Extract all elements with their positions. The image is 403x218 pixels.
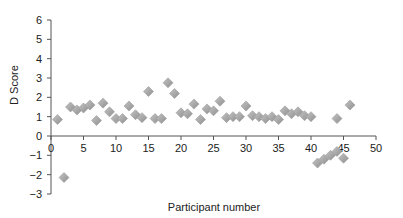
data-point-marker [345,100,355,110]
y-tick-label: 2 [36,91,42,103]
data-point-marker [170,88,180,98]
x-tick-label: 25 [207,142,219,154]
y-tick-label: 5 [36,33,42,45]
x-axis-label: Participant number [168,201,261,213]
y-axis: −3−2−10123456 [29,14,51,200]
x-tick-label: 50 [370,142,382,154]
chart-canvas: −3−2−10123456 05101520253035404550 D Sco… [0,0,403,218]
data-point-marker [215,96,225,106]
data-point-marker [53,115,63,125]
data-point-marker [59,173,69,183]
data-point-marker [306,112,316,122]
x-tick-label: 10 [110,142,122,154]
y-tick-label: 0 [36,130,42,142]
data-point-marker [144,87,154,97]
y-tick-label: 3 [36,72,42,84]
y-tick-label: −1 [29,149,42,161]
data-point-marker [339,153,349,163]
data-point-marker [118,114,128,124]
data-point-marker [92,116,102,126]
data-point-marker [124,101,134,111]
data-point-marker [332,114,342,124]
y-tick-label: 4 [36,53,42,65]
x-tick-label: 0 [48,142,54,154]
data-point-marker [196,115,206,125]
x-tick-label: 40 [305,142,317,154]
data-point-marker [163,78,173,88]
data-point-marker [183,109,193,119]
y-tick-label: −2 [29,169,42,181]
data-point-marker [98,98,108,108]
y-axis-label: D Score [8,65,20,105]
y-tick-label: 1 [36,111,42,123]
x-tick-label: 5 [80,142,86,154]
data-point-marker [241,101,251,111]
x-tick-label: 35 [272,142,284,154]
y-tick-label: −3 [29,188,42,200]
x-tick-label: 30 [240,142,252,154]
data-point-marker [189,99,199,109]
scatter-chart: −3−2−10123456 05101520253035404550 D Sco… [0,0,403,218]
data-point-marker [235,112,245,122]
data-point-marker [157,114,167,124]
data-point-marker [105,107,115,117]
y-tick-label: 6 [36,14,42,26]
x-tick-label: 15 [142,142,154,154]
x-tick-label: 20 [175,142,187,154]
data-points [53,78,356,183]
